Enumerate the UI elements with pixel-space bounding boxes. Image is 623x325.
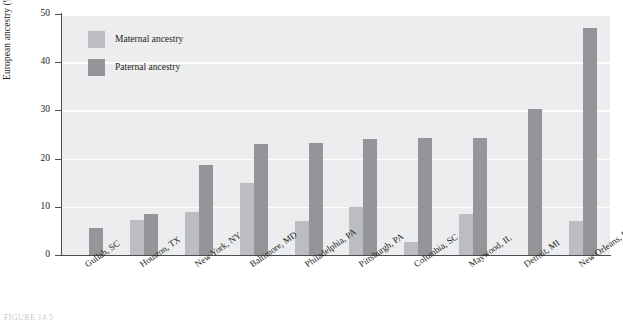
- legend-item-maternal: Maternal ancestry: [88, 29, 183, 49]
- bar-paternal: [254, 144, 268, 255]
- x-axis-tick-label: Baltimore, MD: [248, 261, 254, 269]
- y-axis-tick-label: 10: [20, 201, 50, 211]
- figure-container: European ancestry (%) 01020304050 Gullah…: [0, 0, 623, 325]
- x-axis-tick-label: Houston, TX: [138, 261, 144, 269]
- bar-maternal: [185, 212, 199, 255]
- y-axis-tick-label: 50: [20, 8, 50, 18]
- bar-paternal: [363, 139, 377, 255]
- x-axis-tick-label: Columbia, SC: [412, 261, 418, 269]
- bar-maternal: [459, 214, 473, 255]
- x-axis-tick-label: Gullah, SC: [83, 261, 89, 269]
- y-axis-title: European ancestry (%): [2, 0, 12, 80]
- legend-label-paternal: Paternal ancestry: [115, 62, 180, 72]
- y-axis-tick: [55, 110, 62, 111]
- y-axis-tick-label: 0: [20, 249, 50, 259]
- y-axis-tick: [55, 207, 62, 208]
- y-axis-tick: [55, 14, 62, 15]
- bar-paternal: [309, 143, 323, 255]
- x-axis-tick-label: New York, NY: [193, 261, 199, 269]
- figure-caption: FIGURE 14.5: [4, 313, 53, 322]
- y-axis-tick: [55, 255, 62, 256]
- bar-maternal: [569, 221, 583, 255]
- legend-swatch-paternal-icon: [88, 59, 105, 76]
- legend-label-maternal: Maternal ancestry: [115, 34, 183, 44]
- bar-paternal: [528, 109, 542, 255]
- y-axis-tick-label: 20: [20, 153, 50, 163]
- x-axis-tick-label: Detroit, MI: [522, 261, 528, 269]
- bar-paternal: [199, 165, 213, 255]
- bar-paternal: [583, 28, 597, 255]
- bar-paternal: [473, 138, 487, 255]
- bar-group: [404, 14, 432, 255]
- bar-paternal: [418, 138, 432, 255]
- bar-maternal: [130, 220, 144, 255]
- bar-maternal: [240, 183, 254, 255]
- chart-legend: Maternal ancestry Paternal ancestry: [88, 29, 183, 85]
- y-axis-line: [61, 13, 62, 256]
- legend-swatch-maternal-icon: [88, 31, 105, 48]
- bar-group: [514, 14, 542, 255]
- bar-group: [295, 14, 323, 255]
- bar-group: [240, 14, 268, 255]
- y-axis-tick-label: 30: [20, 104, 50, 114]
- bar-group: [349, 14, 377, 255]
- bar-group: [185, 14, 213, 255]
- bar-group: [459, 14, 487, 255]
- y-axis-tick: [55, 62, 62, 63]
- x-axis-tick-label: Maywood, IL: [467, 261, 473, 269]
- bar-maternal: [404, 242, 418, 255]
- x-axis-tick-label: Pittsburgh, PA: [357, 261, 363, 269]
- bar-group: [569, 14, 597, 255]
- x-axis-tick-label: Philadelphia, PA: [303, 261, 309, 269]
- x-axis-tick-label: New Orleans, LA: [577, 261, 583, 269]
- y-axis-tick: [55, 159, 62, 160]
- legend-item-paternal: Paternal ancestry: [88, 57, 183, 77]
- y-axis-tick-label: 40: [20, 56, 50, 66]
